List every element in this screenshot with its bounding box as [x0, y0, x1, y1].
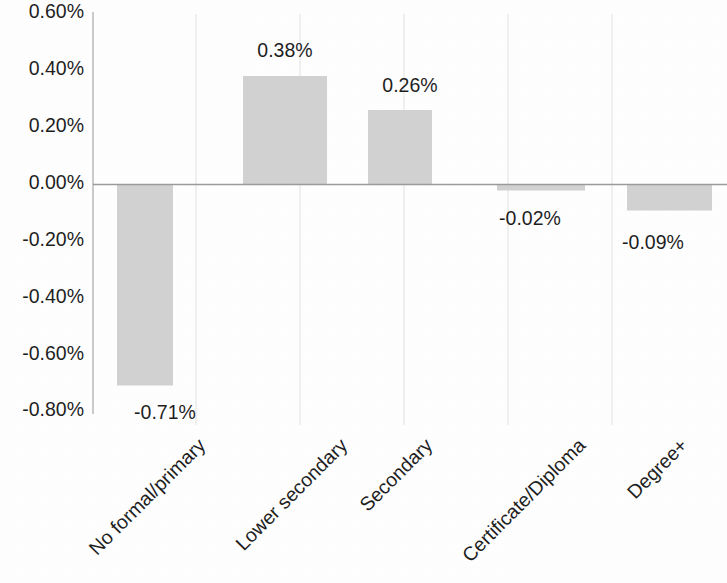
y-tick-label: 0.40% — [29, 57, 84, 79]
x-tick-label-secondary: Secondary — [355, 434, 437, 516]
y-tick-label: -0.20% — [22, 228, 84, 250]
bar-secondary[interactable] — [368, 110, 432, 184]
y-tick-label: -0.80% — [22, 398, 84, 420]
y-axis-tick-labels: 0.60% 0.40% 0.20% 0.00% -0.20% -0.40% -0… — [22, 0, 84, 420]
bar-chart-figure: 0.60% 0.40% 0.20% 0.00% -0.20% -0.40% -0… — [0, 0, 727, 583]
y-tick-label: -0.40% — [22, 285, 84, 307]
value-label-certificate-diploma: -0.02% — [499, 207, 561, 229]
x-tick-label-degree-plus: Degree+ — [623, 434, 692, 503]
y-tick-label: 0.20% — [29, 114, 84, 136]
x-axis-category-labels: No formal/primary Lower secondary Second… — [84, 434, 691, 566]
bar-lower-secondary[interactable] — [243, 76, 327, 184]
value-label-secondary: 0.26% — [382, 74, 437, 96]
bar-degree-plus[interactable] — [627, 185, 712, 211]
value-label-no-formal-primary: -0.71% — [134, 401, 196, 423]
x-tick-label-lower-secondary: Lower secondary — [231, 434, 352, 555]
y-tick-label: -0.60% — [22, 342, 84, 364]
y-tick-label: 0.00% — [29, 171, 84, 193]
y-tick-label: 0.60% — [29, 0, 84, 22]
chart-canvas: 0.60% 0.40% 0.20% 0.00% -0.20% -0.40% -0… — [0, 0, 727, 583]
value-label-degree-plus: -0.09% — [622, 231, 684, 253]
bar-no-formal-primary[interactable] — [117, 185, 173, 386]
value-label-lower-secondary: 0.38% — [257, 39, 312, 61]
x-tick-label-no-formal-primary: No formal/primary — [84, 434, 209, 559]
x-tick-label-certificate-diploma: Certificate/Diploma — [457, 434, 589, 566]
data-value-labels: -0.71% 0.38% 0.26% -0.02% -0.09% — [134, 39, 684, 423]
bar-certificate-diploma[interactable] — [497, 185, 585, 191]
